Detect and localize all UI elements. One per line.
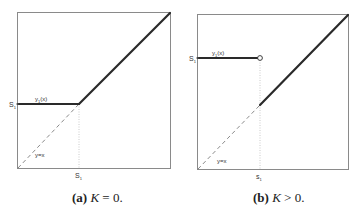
figure-canvas: S1 S1 y1(x) y=x S1 s1 y1(x) y=x (0, 0, 362, 215)
panel-a-identity-label: y=x (35, 152, 45, 158)
panel-a: S1 S1 y1(x) y=x (9, 13, 171, 182)
panel-a-caption-relation: = 0. (99, 190, 123, 205)
panel-b-y-axis-label: S1 (189, 55, 197, 64)
panel-a-caption-tag: (a) (72, 190, 87, 205)
panel-a-identity-dashed-line (18, 104, 79, 168)
panel-b-open-circle-marker (258, 56, 263, 61)
panel-b-identity-dashed-line (198, 105, 260, 169)
panel-b: S1 s1 y1(x) y=x (189, 15, 349, 183)
panel-a-caption-variable: K (90, 190, 99, 205)
panel-b-x-axis-label: s1 (256, 173, 263, 182)
panel-a-x-axis-label: S1 (75, 172, 83, 181)
panel-b-flat-curve-label: y1(x) (212, 50, 224, 58)
panel-b-identity-label: y=x (217, 158, 227, 164)
panel-a-diagonal-curve (79, 13, 170, 104)
panel-a-caption: (a) K = 0. (72, 190, 123, 206)
panel-b-caption-relation: > 0. (281, 190, 305, 205)
panel-a-y-axis-label: S1 (9, 101, 17, 110)
panel-b-caption-variable: K (272, 190, 281, 205)
panel-a-flat-curve-label: y1(x) (35, 96, 47, 104)
panel-b-caption: (b) K > 0. (253, 190, 304, 206)
panel-b-caption-tag: (b) (253, 190, 269, 205)
panel-b-diagonal-curve (260, 15, 348, 105)
